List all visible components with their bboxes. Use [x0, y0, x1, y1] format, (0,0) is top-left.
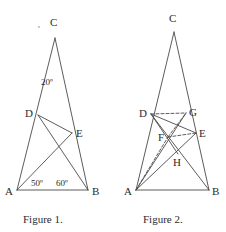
fig1-label-E: E [76, 128, 83, 139]
fig2-label-E: E [199, 128, 206, 139]
figure-1-segment-DE [38, 115, 72, 133]
fig1-angle-dab: 50º [31, 179, 43, 188]
figure-1-side-AC [17, 38, 55, 190]
fig1-label-D: D [25, 108, 33, 119]
fig2-label-D: D [139, 108, 147, 119]
figure-1-side-BC [55, 38, 88, 190]
figure-2-caption: Figure 2. [143, 214, 183, 225]
fig1-label-A: A [5, 186, 13, 197]
fig2-label-H: H [173, 157, 181, 168]
fig2-label-G: G [189, 107, 197, 118]
figure-2-segment-FG [168, 113, 186, 137]
fig1-angle-at-c: 20º [41, 78, 53, 87]
fig2-label-F: F [158, 132, 164, 143]
fig2-label-A: A [124, 186, 132, 197]
fig1-label-B: B [92, 186, 99, 197]
fig2-label-B: B [212, 186, 219, 197]
fig2-label-C: C [169, 13, 176, 24]
figure-page: C D E A B 20º 50º 60º C D G E F H A B Fi… [0, 0, 226, 232]
fig1-angle-eba: 60º [56, 179, 68, 188]
fig1-label-C: C [50, 17, 57, 28]
figure-1-caption: Figure 1. [23, 214, 63, 225]
figure-2-segment-AG [136, 113, 186, 190]
figure-2-segment-DG [151, 113, 186, 114]
